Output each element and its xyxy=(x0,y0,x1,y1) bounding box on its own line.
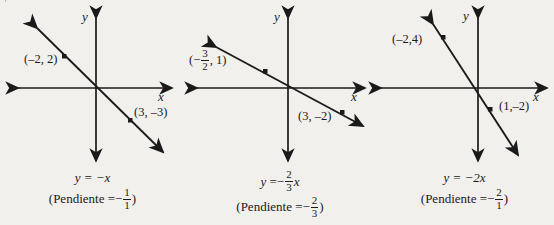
point-label-b: (3, –3) xyxy=(134,106,167,119)
point-label-a: (–2,4) xyxy=(392,33,422,46)
point-label-a-close: , 1) xyxy=(210,54,227,67)
slope-prefix: (Pendiente =− xyxy=(236,199,310,214)
data-point-2 xyxy=(128,118,133,123)
slope-text: (Pendiente =−11) xyxy=(0,188,185,212)
point-label-b: (1,–2) xyxy=(499,100,529,113)
y-axis-label: y xyxy=(272,9,280,24)
equation-numerator: 2 xyxy=(285,169,293,181)
slope-suffix: ) xyxy=(504,191,508,206)
data-point-1 xyxy=(441,35,446,40)
slope-text: (Pendiente =−23) xyxy=(185,196,375,220)
slope-prefix: (Pendiente =− xyxy=(421,191,495,206)
slope-text: (Pendiente =−21) xyxy=(375,188,554,212)
panel-3-caption: y = −2x (Pendiente =−21) xyxy=(375,170,554,212)
data-point-1 xyxy=(62,54,67,59)
slope-denominator: 1 xyxy=(495,199,503,212)
y-axis-label: y xyxy=(461,8,469,23)
equation-text: y = −2x xyxy=(375,170,554,186)
slope-numerator: 2 xyxy=(495,187,503,199)
graph-panel-3: y x (–2,4) (1,–2) y = −2x (Pendiente =−2… xyxy=(375,0,554,225)
graph-panel-2: y x (−32, 1) (3, –2) y =−23x (Pendiente … xyxy=(185,0,375,225)
equation-lhs: y xyxy=(75,170,81,185)
equation-operator: =− xyxy=(270,174,285,190)
point-label-a-denominator: 2 xyxy=(201,60,209,73)
panel-1-caption: y = −x (Pendiente =−11) xyxy=(0,170,185,212)
x-axis-label: x xyxy=(157,89,164,104)
equation-rhs: = −x xyxy=(84,170,111,185)
equation-variable: x xyxy=(294,174,300,190)
point-label-a-fraction: 32 xyxy=(201,48,209,72)
slope-fraction: 21 xyxy=(495,187,503,211)
data-point-1 xyxy=(263,69,268,74)
y-axis-label: y xyxy=(80,9,88,24)
point-label-a-open: (− xyxy=(189,54,200,67)
slope-numerator: 2 xyxy=(311,195,319,207)
graph-panel-1: y x (–2, 2) (3, –3) y = −x (Pendiente =−… xyxy=(0,0,185,225)
slope-fraction: 23 xyxy=(311,195,319,219)
plotted-line xyxy=(433,24,518,155)
equation-lhs: y xyxy=(443,170,449,185)
data-point-2 xyxy=(340,110,345,115)
graph-figure: y x (–2, 2) (3, –3) y = −x (Pendiente =−… xyxy=(0,0,554,225)
equation-text: y =−23x xyxy=(185,170,375,194)
point-label-b: (3, –2) xyxy=(298,110,331,123)
equation-lhs: y xyxy=(261,174,267,190)
slope-suffix: ) xyxy=(319,199,323,214)
point-label-a: (−32, 1) xyxy=(189,49,226,73)
x-axis-label: x xyxy=(532,89,539,104)
slope-fraction: 11 xyxy=(123,187,131,211)
point-label-a: (–2, 2) xyxy=(24,53,57,66)
slope-numerator: 1 xyxy=(123,187,131,199)
x-axis-label: x xyxy=(350,89,357,104)
panel-2-caption: y =−23x (Pendiente =−23) xyxy=(185,170,375,220)
data-point-2 xyxy=(488,107,493,112)
equation-rhs: = −2x xyxy=(452,170,485,185)
equation-text: y = −x xyxy=(0,170,185,186)
slope-denominator: 3 xyxy=(311,207,319,220)
slope-denominator: 1 xyxy=(123,199,131,212)
plotted-line xyxy=(37,28,163,152)
slope-suffix: ) xyxy=(132,191,136,206)
slope-prefix: (Pendiente =− xyxy=(49,191,123,206)
equation-fraction: 23 xyxy=(285,169,293,193)
point-label-a-numerator: 3 xyxy=(201,48,209,60)
equation-denominator: 3 xyxy=(285,181,293,194)
